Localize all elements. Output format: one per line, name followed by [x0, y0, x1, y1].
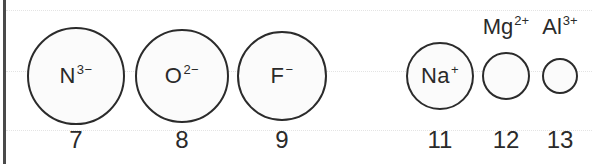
ion-symbol: O [165, 63, 183, 88]
atomic-number-label: 9 [262, 126, 302, 154]
ion-circle-o: O2− [135, 29, 229, 123]
ion-label: N3− [59, 63, 92, 89]
ion-symbol: Na [421, 63, 450, 88]
guide-line-top [6, 10, 592, 11]
ion-circle-al [542, 58, 578, 94]
ion-charge: 2+ [514, 13, 529, 28]
ion-symbol: N [59, 63, 75, 88]
ion-label: O2− [165, 63, 199, 89]
atomic-number-label: 12 [486, 126, 526, 154]
ion-charge: + [451, 62, 459, 77]
atomic-number-label: 7 [56, 126, 96, 154]
ion-symbol: F [270, 63, 284, 88]
ion-charge: − [285, 62, 293, 77]
ion-symbol: Mg [483, 14, 514, 39]
left-border-line [3, 0, 6, 164]
ion-circle-mg [482, 52, 530, 100]
ion-circle-na: Na+ [406, 42, 474, 110]
ion-label-above: Al3+ [528, 14, 592, 40]
atomic-number-label: 8 [162, 126, 202, 154]
ion-charge: 3− [77, 62, 93, 77]
ion-circle-n: N3− [27, 27, 125, 125]
ion-label: Na+ [421, 63, 459, 89]
atomic-number-label: 13 [540, 126, 580, 154]
ion-label: F− [270, 63, 293, 89]
ion-symbol: Al [542, 14, 562, 39]
ion-charge: 2− [183, 62, 199, 77]
ion-circle-f: F− [237, 31, 327, 121]
atomic-number-label: 11 [420, 126, 460, 154]
ion-charge: 3+ [563, 13, 578, 28]
